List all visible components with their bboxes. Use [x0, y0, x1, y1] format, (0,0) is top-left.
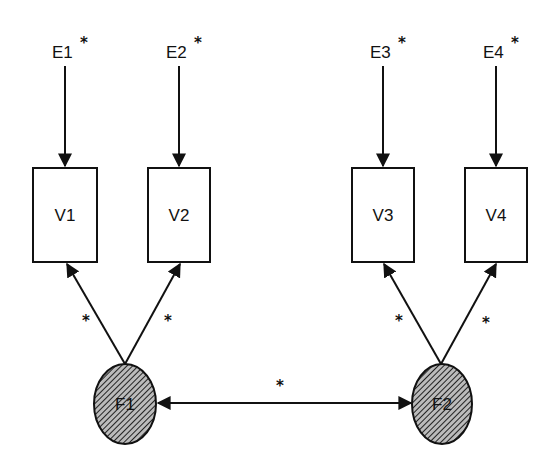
factor-f2: F2: [412, 364, 472, 444]
loading-star-v2: *: [164, 312, 172, 330]
svg-text:*: *: [511, 34, 519, 52]
loading-f2-v3: [384, 264, 441, 364]
svg-text:E3: E3: [370, 43, 391, 62]
path-diagram: E1 * E2 * E3 * E4 * V1 V2 V3 V4: [0, 0, 551, 462]
loading-star-v3: *: [395, 312, 403, 330]
loading-star-v1: *: [82, 312, 90, 330]
svg-text:*: *: [398, 34, 406, 52]
variable-v3: V3: [352, 168, 414, 262]
variable-v4: V4: [465, 168, 527, 262]
error-e2: E2 *: [166, 34, 202, 62]
svg-text:V1: V1: [55, 206, 76, 225]
svg-text:*: *: [80, 34, 88, 52]
variable-v2: V2: [148, 168, 210, 262]
svg-text:E4: E4: [483, 43, 504, 62]
svg-text:E1: E1: [52, 43, 73, 62]
variable-v1: V1: [33, 168, 97, 262]
error-e3: E3 *: [370, 34, 406, 62]
svg-text:*: *: [194, 34, 202, 52]
svg-text:V3: V3: [373, 206, 394, 225]
error-e1: E1 *: [52, 34, 88, 62]
svg-text:E2: E2: [166, 43, 187, 62]
svg-text:F1: F1: [115, 395, 135, 414]
factor-f1: F1: [94, 364, 156, 444]
loading-star-v4: *: [482, 314, 490, 332]
covariance-star: *: [276, 377, 284, 395]
loading-f1-v1: [67, 264, 125, 364]
svg-text:F2: F2: [432, 395, 452, 414]
svg-text:V4: V4: [486, 206, 507, 225]
error-e4: E4 *: [483, 34, 519, 62]
svg-text:V2: V2: [169, 206, 190, 225]
